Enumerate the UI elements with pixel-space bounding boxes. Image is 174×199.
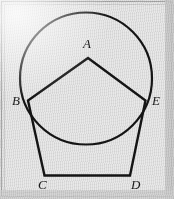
scan-gutter-bottom [0, 190, 174, 199]
geometry-figure: A B C D E [0, 0, 174, 199]
pentagon-abcde [28, 58, 146, 176]
scan-gutter-right [165, 0, 174, 199]
vertex-label-b: B [12, 94, 20, 107]
figure-border [2, 2, 172, 197]
vertex-label-a: A [83, 37, 91, 50]
vertex-label-d: D [131, 178, 140, 191]
vertex-label-c: C [38, 178, 47, 191]
diagram-canvas [0, 0, 174, 199]
vertex-label-e: E [152, 94, 160, 107]
circumscribing-circle [20, 13, 152, 145]
